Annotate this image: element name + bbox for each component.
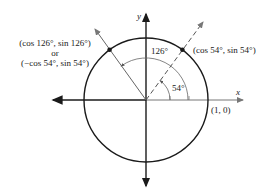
point-label-54: (cos 54°, sin 54°) <box>193 45 256 55</box>
angle-label-126: 126° <box>151 46 169 56</box>
point-label-126-or: or <box>51 48 59 58</box>
point-label-126-line1: (cos 126°, sin 126°) <box>19 38 91 48</box>
point-126-degrees <box>107 48 112 53</box>
angle-label-54: 54° <box>172 83 185 93</box>
unit-circle-diagram: y x 126° 54° (cos 54°, sin 54°) (1, 0) (… <box>0 0 269 196</box>
y-axis-label: y <box>136 11 141 21</box>
point-54-degrees <box>180 48 185 53</box>
point-label-1-0: (1, 0) <box>211 105 231 115</box>
ray-126-degrees <box>95 29 146 100</box>
point-label-126-line3: (−cos 54°, sin 54°) <box>21 58 89 68</box>
x-axis-label: x <box>235 87 240 97</box>
arc-54-degrees <box>160 81 170 100</box>
